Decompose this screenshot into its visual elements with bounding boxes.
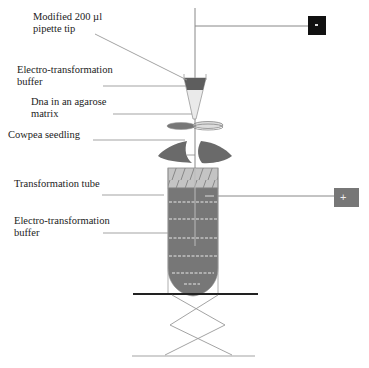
positive-electrode-icon: + [334, 188, 359, 207]
label-buffer-bottom: Electro-transformation buffer [14, 215, 110, 239]
label-pipette-tip: Modified 200 µl pipette tip [33, 11, 102, 35]
scissor-lift-icon [132, 295, 255, 356]
negative-electrode-icon [308, 16, 326, 35]
cowpea-seedling-icon [158, 130, 232, 168]
pipette-tip-icon [184, 74, 206, 119]
agarose-matrix-icon [167, 119, 223, 130]
label-buffer-top: Electro-transformation buffer [17, 64, 113, 88]
label-tube: Transformation tube [14, 178, 100, 190]
svg-text:+: + [340, 191, 346, 203]
label-dna-agarose: Dna in an agarose matrix [31, 96, 107, 120]
transformation-tube-icon [168, 168, 218, 296]
label-seedling: Cowpea seedling [8, 129, 80, 141]
